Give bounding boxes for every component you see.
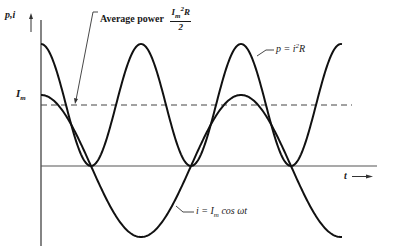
y-arrow-head-icon <box>29 13 33 19</box>
fraction-numerator: Im2R <box>170 6 190 22</box>
average-power-leader-arrow-icon <box>74 98 78 104</box>
average-power-leader <box>76 12 98 100</box>
current-equation: i = Im cos ωt <box>196 206 247 219</box>
current-eq-leader <box>176 206 194 212</box>
power-eq-left: p = i <box>276 43 296 54</box>
y-axis-label: p,i <box>5 10 15 20</box>
power-equation: p = i2R <box>276 43 305 54</box>
current-eq-left: i = I <box>196 205 214 216</box>
average-power-text: Average power <box>100 13 164 24</box>
t-arrow-head-icon <box>366 175 373 179</box>
im-level-sub: m <box>20 94 25 102</box>
current-eq-right: cos ωt <box>219 205 247 216</box>
x-axis-label: t <box>344 171 347 181</box>
im-level-label: Im <box>16 88 26 102</box>
fraction-denominator: 2 <box>170 22 190 32</box>
power-eq-right: R <box>299 43 305 54</box>
power-eq-leader <box>257 50 274 56</box>
average-power-fraction: Im2R 2 <box>170 6 190 32</box>
num-tail: R <box>184 7 190 17</box>
average-power-annotation: Average power Im2R 2 <box>100 6 191 32</box>
